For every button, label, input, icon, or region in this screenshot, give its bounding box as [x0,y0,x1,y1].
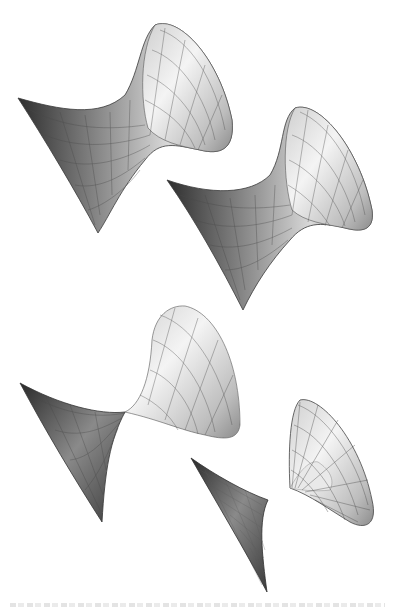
figure-caption [10,603,385,607]
surface-4 [191,458,268,592]
surface-3 [20,306,240,522]
surface-figure [0,0,395,611]
surface-5 [289,400,373,526]
